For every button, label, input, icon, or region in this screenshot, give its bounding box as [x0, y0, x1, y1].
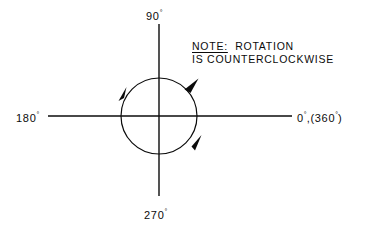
axis-label-0-360: 0°,(360°)	[297, 111, 342, 124]
arrowhead-upper-right-icon	[185, 79, 199, 94]
axis-label-180-value: 180	[16, 112, 36, 124]
note-keyword: NOTE:	[192, 40, 228, 52]
axis-label-270-value: 270	[144, 209, 164, 221]
axis-label-closing-paren: )	[338, 112, 342, 124]
degree-symbol-icon: °	[164, 208, 167, 215]
axis-label-90: 90°	[146, 9, 162, 22]
axis-label-360-value: 360	[315, 112, 335, 124]
axis-label-90-value: 90	[146, 10, 160, 22]
note-line-2: IS COUNTERCLOCKWISE	[192, 53, 334, 66]
rotation-note: NOTE: ROTATION IS COUNTERCLOCKWISE	[192, 40, 334, 66]
axis-label-270: 270°	[144, 208, 167, 221]
axis-label-separator: ,(	[307, 112, 315, 124]
degree-symbol-icon: °	[36, 111, 39, 118]
axis-label-180: 180°	[16, 111, 39, 124]
note-line-1: NOTE: ROTATION	[192, 40, 334, 53]
degree-symbol-icon: °	[160, 9, 163, 16]
rotation-diagram: 90° 270° 180° 0°,(360°) NOTE: ROTATION I…	[0, 0, 365, 230]
axis-label-0-value: 0	[297, 112, 304, 124]
arrowhead-lower-right-icon	[192, 135, 202, 151]
note-line-1-text: ROTATION	[235, 40, 294, 52]
